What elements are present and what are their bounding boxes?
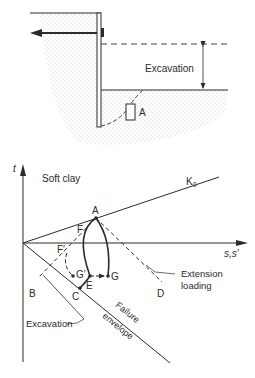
soil-element-a	[126, 104, 135, 120]
point-c	[78, 286, 82, 290]
anchor-arrow-icon	[30, 29, 42, 37]
k0-label: K0	[186, 176, 197, 188]
failure-envelope-line	[23, 243, 170, 363]
point-e-label: E	[86, 280, 93, 291]
extension-leader	[146, 265, 175, 274]
point-g-prime-label: G′	[76, 269, 86, 280]
element-a-label: A	[139, 107, 146, 118]
point-d-label: D	[157, 288, 164, 299]
s-axis-arrow-icon	[236, 240, 248, 246]
s-axis-label: s,s′	[224, 248, 240, 259]
figure: Excavation A t s,s′ Soft clay K0 Failure…	[0, 0, 255, 378]
point-g-prime	[71, 274, 75, 278]
point-e	[88, 274, 92, 278]
point-c-label: C	[72, 291, 79, 302]
effective-path-a-g	[96, 218, 109, 276]
extension-label-line1: Extension	[181, 268, 223, 279]
point-f-label: F	[77, 224, 83, 235]
anchor-plate	[101, 28, 104, 37]
point-g-label: G	[111, 271, 119, 282]
retaining-wall	[97, 13, 101, 127]
point-a	[94, 216, 98, 220]
stress-path-plot: t s,s′ Soft clay K0 Failure envelope B E…	[13, 163, 248, 363]
excavation-section: Excavation A	[30, 13, 228, 145]
material-label: Soft clay	[42, 173, 80, 184]
path-fprime-gprime	[65, 253, 73, 276]
point-b-label: B	[29, 288, 36, 299]
t-axis-label: t	[13, 163, 17, 174]
stress-path-a-d	[96, 218, 162, 282]
t-axis-arrow-icon	[20, 164, 26, 176]
point-f-prime-label: F′	[57, 244, 65, 255]
excavation-label: Excavation	[145, 63, 194, 74]
point-a-label: A	[92, 205, 99, 216]
excavation-plot-label: Excavation	[26, 318, 72, 329]
extension-label-line2: loading	[181, 280, 212, 291]
point-g	[106, 274, 110, 278]
